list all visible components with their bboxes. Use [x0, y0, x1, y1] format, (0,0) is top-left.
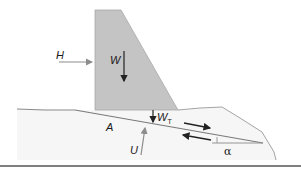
label-alpha: α: [224, 146, 231, 157]
label-A: A: [106, 122, 113, 133]
label-WT: WT: [157, 112, 172, 125]
label-H: H: [56, 50, 64, 61]
ground-mass: [17, 107, 276, 160]
label-W: W: [110, 55, 120, 66]
diagram-graphics: [0, 0, 301, 175]
label-U: U: [130, 145, 138, 156]
dam-body: [95, 10, 178, 110]
dam-sliding-diagram: H W WT A U α: [0, 0, 301, 175]
label-WT-sub: T: [167, 118, 171, 125]
label-WT-main: W: [157, 111, 167, 123]
